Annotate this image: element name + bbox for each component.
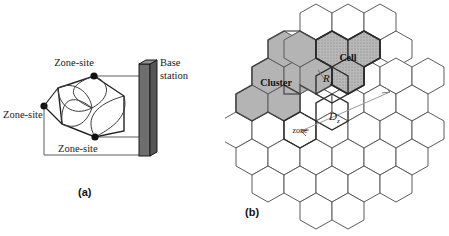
label-base-station-line2: station	[160, 70, 189, 81]
label-base-station-line1: Base	[160, 57, 181, 68]
stem-left	[44, 88, 58, 106]
figure-container: Zone-site Zone-site Zone-site Base stati…	[0, 0, 449, 236]
label-distance-subscript: z	[336, 117, 340, 125]
label-distance-d: D	[328, 110, 337, 122]
panel-a-zone-site-diagram: Zone-site Zone-site Zone-site Base stati…	[0, 0, 225, 236]
zone-site-node-bottom	[91, 133, 98, 140]
label-zone: zone	[292, 126, 308, 135]
zone-site-node-top	[90, 72, 97, 79]
label-zone-site-top: Zone-site	[54, 57, 94, 68]
caption-panel-a: (a)	[78, 186, 91, 198]
label-zone-site-bottom: Zone-site	[58, 143, 98, 154]
panel-a-svg: Zone-site Zone-site Zone-site Base stati…	[0, 0, 225, 236]
label-zone-site-left: Zone-site	[3, 109, 43, 120]
base-station-side-face	[150, 60, 157, 156]
panel-b-hex-grid-diagram: Cluster Cell zone R z D z	[225, 0, 449, 236]
caption-panel-b: (b)	[245, 206, 259, 218]
stem-left-2	[44, 106, 62, 124]
label-radius-r: R	[322, 72, 330, 84]
base-station-slab	[139, 60, 157, 156]
label-radius-subscript: z	[329, 79, 333, 87]
panel-b-svg: Cluster Cell zone R z D z	[225, 0, 449, 236]
label-cluster: Cluster	[260, 77, 292, 88]
base-station-front-face	[139, 64, 150, 156]
label-cell: Cell	[339, 52, 356, 63]
